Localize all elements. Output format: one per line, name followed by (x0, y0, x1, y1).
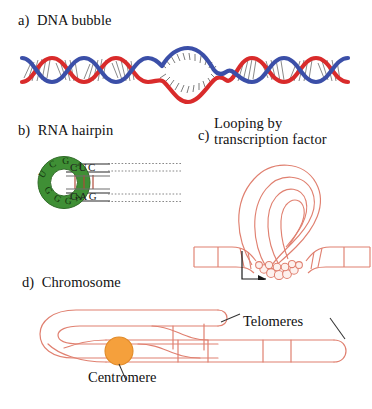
rna-stem-bottom-bases: GAG (70, 190, 98, 202)
panel-b-rna-hairpin-graphic: U C G A A G G G CUC GAG (30, 148, 190, 218)
chromosome-upper-arm-cap (218, 310, 227, 326)
transcription-factor-protein-complex (256, 260, 303, 279)
telomere-leader-right (330, 318, 345, 339)
panel-c-title-line1: Looping by (214, 115, 282, 131)
panel-a-dna-bubble-graphic (0, 30, 372, 110)
rna-continuation-dotted-lines (108, 164, 182, 202)
panel-d-label: d) Chromosome (22, 274, 121, 290)
panel-a-label: a) DNA bubble (18, 12, 112, 28)
centromere-label: Centromere (88, 369, 156, 386)
chromosome-lower-left-join-bottom (48, 344, 106, 362)
dna-arm-right-tick-2 (318, 248, 322, 267)
chromosome-fold-transition-upper (152, 326, 208, 340)
telomeres-label: Telomeres (243, 313, 303, 330)
chromosome-lower-bar-cap (334, 340, 346, 362)
panel-c-index-label: c) (198, 127, 209, 143)
dna-arm-left-lower (194, 267, 254, 273)
panel-c-title: Looping bytranscription factor (214, 115, 327, 147)
panel-b-label: b) RNA hairpin (18, 122, 113, 138)
panel-c-looping-graphic (192, 155, 372, 280)
dna-arm-right-lower (308, 267, 370, 273)
rna-stem-top-bases: CUC (70, 161, 97, 173)
centromere-marker (105, 337, 133, 365)
telomere-leader-left (221, 314, 240, 322)
scientific-figure: a) DNA bubble b) RNA hairpin U C G A A G (0, 0, 372, 409)
dna-arm-right (306, 247, 370, 261)
transcription-factor-arrowhead (258, 275, 266, 280)
rna-loop-base-2: G (62, 156, 70, 167)
chromosome-upper-arm-inner (58, 326, 218, 344)
panel-c-title-line2: transcription factor (214, 131, 327, 147)
chromosome-fold-transition-lower (138, 344, 200, 358)
panel-d-chromosome-graphic (18, 292, 372, 387)
